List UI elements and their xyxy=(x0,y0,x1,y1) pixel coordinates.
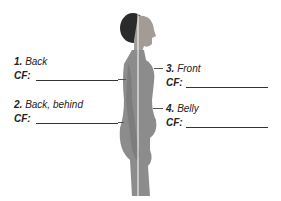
cf-input-front[interactable] xyxy=(186,87,268,88)
cf-label-back-behind: CF: xyxy=(14,113,31,125)
leader-line-back-behind xyxy=(118,122,124,123)
label-belly: 4. Belly xyxy=(166,103,199,115)
label-front: 3. Front xyxy=(166,63,200,75)
label-back-behind: 2. Back, behind xyxy=(14,99,83,111)
label-back: 1. Back xyxy=(14,56,47,68)
leader-line-back xyxy=(118,79,126,80)
cf-label-front: CF: xyxy=(166,77,183,89)
cf-input-back-behind[interactable] xyxy=(36,123,118,124)
leader-line-belly xyxy=(153,108,163,109)
cf-label-back: CF: xyxy=(14,70,31,82)
leader-line-front xyxy=(154,68,163,69)
cf-label-belly: CF: xyxy=(166,117,183,129)
cf-input-back[interactable] xyxy=(36,80,118,81)
cf-input-belly[interactable] xyxy=(186,127,268,128)
